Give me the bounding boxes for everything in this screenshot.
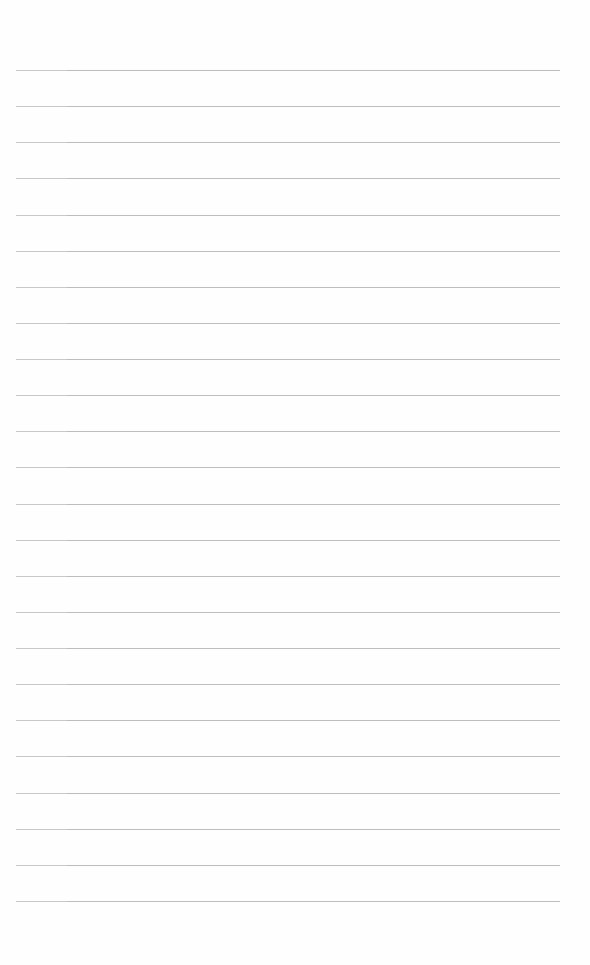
ruled-line <box>16 504 560 505</box>
ruled-line <box>16 70 560 71</box>
ruled-line <box>16 901 560 902</box>
ruled-line <box>16 756 560 757</box>
ruled-line <box>16 359 560 360</box>
ruled-line <box>16 648 560 649</box>
ruled-line <box>16 431 560 432</box>
lined-paper <box>0 0 590 965</box>
ruled-line <box>16 684 560 685</box>
ruled-line <box>16 395 560 396</box>
ruled-line <box>16 829 560 830</box>
ruled-line <box>16 720 560 721</box>
ruled-line <box>16 178 560 179</box>
ruled-line <box>16 251 560 252</box>
ruled-line <box>16 287 560 288</box>
ruled-line <box>16 106 560 107</box>
ruled-line <box>16 793 560 794</box>
ruled-line <box>16 576 560 577</box>
ruled-line <box>16 865 560 866</box>
ruled-line <box>16 467 560 468</box>
ruled-line <box>16 215 560 216</box>
ruled-line <box>16 540 560 541</box>
ruled-line <box>16 612 560 613</box>
ruled-line <box>16 142 560 143</box>
ruled-line <box>16 323 560 324</box>
